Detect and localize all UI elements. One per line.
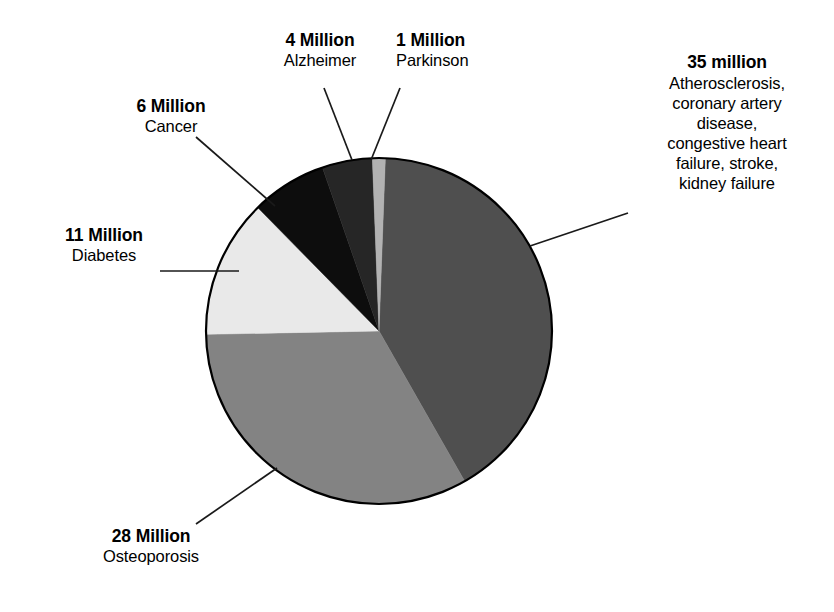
leader-line-alzheimer: [324, 88, 352, 160]
pie-slices-group: [206, 158, 552, 504]
callout-atherosclerosis-line1: Atherosclerosis,: [632, 73, 822, 93]
callout-parkinson: 1 Million Parkinson: [396, 30, 526, 70]
callout-osteoporosis-amount: 28 Million: [56, 526, 246, 547]
callout-diabetes-desc: Diabetes: [24, 246, 184, 265]
callout-cancer-desc: Cancer: [96, 117, 246, 136]
callout-diabetes: 11 Million Diabetes: [24, 225, 184, 265]
callout-diabetes-amount: 11 Million: [24, 225, 184, 246]
leader-line-osteoporosis: [196, 468, 277, 524]
callout-osteoporosis: 28 Million Osteoporosis: [56, 526, 246, 566]
callout-alzheimer-desc: Alzheimer: [250, 51, 390, 70]
leader-line-parkinson: [371, 88, 400, 160]
callout-atherosclerosis-amount: 35 million: [632, 52, 822, 73]
callout-alzheimer: 4 Million Alzheimer: [250, 30, 390, 70]
leader-line-atherosclerosis: [530, 213, 628, 246]
callout-atherosclerosis: 35 million Atherosclerosis, coronary art…: [632, 52, 822, 193]
leader-line-cancer: [196, 137, 275, 206]
callout-osteoporosis-desc: Osteoporosis: [56, 547, 246, 566]
callout-alzheimer-amount: 4 Million: [250, 30, 390, 51]
callout-atherosclerosis-line2: coronary artery: [632, 93, 822, 113]
callout-atherosclerosis-line6: kidney failure: [632, 173, 822, 193]
callout-atherosclerosis-line4: congestive heart: [632, 133, 822, 153]
callout-cancer: 6 Million Cancer: [96, 96, 246, 136]
callout-atherosclerosis-line5: failure, stroke,: [632, 153, 822, 173]
callout-atherosclerosis-line3: disease,: [632, 113, 822, 133]
callout-parkinson-desc: Parkinson: [396, 51, 526, 70]
callout-cancer-amount: 6 Million: [96, 96, 246, 117]
callout-parkinson-amount: 1 Million: [396, 30, 526, 51]
pie-chart-figure: 1 Million Parkinson 4 Million Alzheimer …: [0, 0, 834, 612]
